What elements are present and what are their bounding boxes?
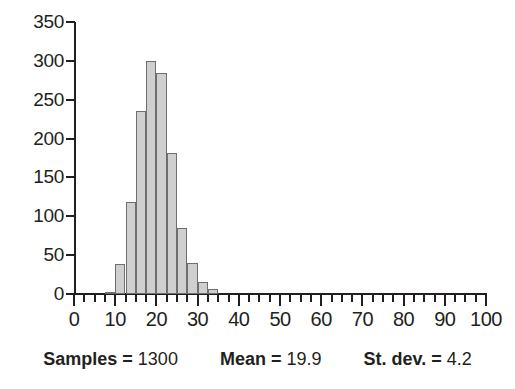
caption-stat: Samples = 1300	[43, 348, 178, 370]
x-axis-minor-tick	[145, 295, 147, 302]
histogram-figure: 050100150200250300350 010203040506070809…	[0, 0, 515, 389]
caption-stat-value: 1300	[138, 349, 178, 369]
x-axis-minor-tick	[135, 295, 137, 302]
x-axis-major-tick	[238, 295, 240, 306]
x-axis-minor-tick	[382, 295, 384, 302]
y-axis-labels: 050100150200250300350	[10, 0, 64, 389]
x-axis-minor-tick	[372, 295, 374, 302]
x-axis-minor-tick	[166, 295, 168, 302]
histogram-bar	[126, 202, 136, 294]
histogram-bar	[105, 292, 115, 294]
histogram-bar	[187, 263, 197, 294]
histogram-bar	[146, 61, 156, 294]
histogram-bar	[198, 282, 208, 294]
y-axis-tick-label: 300	[18, 51, 64, 70]
x-axis-minor-tick	[83, 295, 85, 302]
y-axis-tick-label: 50	[18, 245, 64, 264]
x-axis-minor-tick	[289, 295, 291, 302]
x-axis-minor-tick	[300, 295, 302, 302]
x-axis-major-tick	[361, 295, 363, 306]
chart-caption: Samples = 1300Mean = 19.9St. dev. = 4.2	[0, 344, 515, 374]
x-axis-minor-tick	[207, 295, 209, 302]
x-axis-minor-tick	[217, 295, 219, 302]
x-axis-minor-tick	[310, 295, 312, 302]
histogram-bars	[74, 22, 486, 294]
histogram-bar	[136, 111, 146, 294]
x-axis-major-tick	[320, 295, 322, 306]
x-axis-minor-tick	[258, 295, 260, 302]
x-axis-major-tick	[197, 295, 199, 306]
histogram-bar	[177, 228, 187, 294]
x-axis-major-tick	[279, 295, 281, 306]
x-axis-major-tick	[114, 295, 116, 306]
y-axis-tick-label: 200	[18, 129, 64, 148]
x-axis-minor-tick	[248, 295, 250, 302]
x-axis-minor-tick	[269, 295, 271, 302]
x-axis-minor-tick	[454, 295, 456, 302]
histogram-bar	[208, 289, 218, 294]
x-axis-minor-tick	[423, 295, 425, 302]
x-axis-major-tick	[155, 295, 157, 306]
x-axis-major-tick	[73, 295, 75, 306]
x-axis-minor-tick	[351, 295, 353, 302]
caption-stat-equals: =	[117, 349, 138, 369]
histogram-bar	[156, 73, 166, 294]
y-axis-tick-label: 350	[18, 12, 64, 31]
x-axis-minor-tick	[341, 295, 343, 302]
caption-stat-equals: =	[426, 349, 447, 369]
x-axis-minor-tick	[228, 295, 230, 302]
caption-stat-label: St. dev.	[363, 349, 426, 369]
histogram-bar	[115, 264, 125, 294]
caption-stat-value: 4.2	[447, 349, 472, 369]
x-axis-minor-tick	[104, 295, 106, 302]
x-axis-minor-tick	[94, 295, 96, 302]
x-axis-major-tick	[403, 295, 405, 306]
x-axis-minor-tick	[413, 295, 415, 302]
x-axis-minor-tick	[392, 295, 394, 302]
caption-stat-label: Mean	[220, 349, 266, 369]
caption-stat-equals: =	[266, 349, 287, 369]
caption-stat: Mean = 19.9	[220, 348, 322, 370]
x-axis-minor-tick	[176, 295, 178, 302]
plot-area	[74, 22, 486, 294]
x-axis-tick-label: 100	[456, 308, 515, 330]
x-axis-major-tick	[444, 295, 446, 306]
x-axis-minor-tick	[125, 295, 127, 302]
x-axis-minor-tick	[186, 295, 188, 302]
caption-stat: St. dev. = 4.2	[363, 348, 471, 370]
x-axis-minor-tick	[434, 295, 436, 302]
x-axis-major-tick	[485, 295, 487, 306]
caption-stat-value: 19.9	[286, 349, 321, 369]
histogram-bar	[167, 153, 177, 294]
y-axis-tick-label: 250	[18, 90, 64, 109]
x-axis-minor-tick	[464, 295, 466, 302]
caption-stat-label: Samples	[43, 349, 117, 369]
y-axis-tick-label: 150	[18, 167, 64, 186]
y-axis-tick-label: 0	[18, 284, 64, 303]
x-axis-minor-tick	[475, 295, 477, 302]
x-axis-minor-tick	[331, 295, 333, 302]
y-axis-tick-label: 100	[18, 206, 64, 225]
